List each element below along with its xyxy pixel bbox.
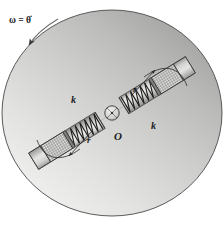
radius-label-lower: r (87, 136, 91, 145)
rotating-disk-figure: ω = θ̇ k k r r O (0, 0, 224, 226)
figure-canvas (0, 0, 224, 226)
pivot-hub-icon (105, 106, 119, 120)
center-point-label: O (114, 131, 122, 142)
spring-constant-label-left: k (71, 95, 76, 105)
radius-label-upper: r (133, 85, 137, 94)
angular-velocity-label: ω = θ̇ (9, 16, 31, 26)
spring-constant-label-right: k (151, 121, 156, 131)
